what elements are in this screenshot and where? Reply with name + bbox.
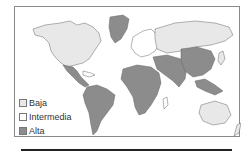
region-japan xyxy=(218,51,225,65)
region-southeast-asia xyxy=(195,79,223,95)
region-madagascar xyxy=(163,97,168,109)
legend-label-baja: Baja xyxy=(29,98,47,108)
swatch-intermedia xyxy=(19,113,27,121)
legend-item-alta: Alta xyxy=(19,125,72,137)
divider-rule xyxy=(21,149,232,151)
legend-label-intermedia: Intermedia xyxy=(29,112,72,122)
region-north-america xyxy=(33,21,101,67)
map-legend: Baja Intermedia Alta xyxy=(19,97,72,139)
region-australia xyxy=(199,101,231,125)
legend-item-intermedia: Intermedia xyxy=(19,111,72,123)
region-south-america xyxy=(83,85,115,135)
region-africa xyxy=(121,65,161,115)
region-greenland xyxy=(109,15,129,43)
region-caribbean xyxy=(83,71,95,77)
legend-label-alta: Alta xyxy=(29,126,45,136)
region-central-america xyxy=(63,65,89,87)
region-new-zealand xyxy=(234,123,241,136)
map-frame: Baja Intermedia Alta xyxy=(14,6,240,137)
legend-item-baja: Baja xyxy=(19,97,72,109)
swatch-alta xyxy=(19,127,27,135)
swatch-baja xyxy=(19,99,27,107)
